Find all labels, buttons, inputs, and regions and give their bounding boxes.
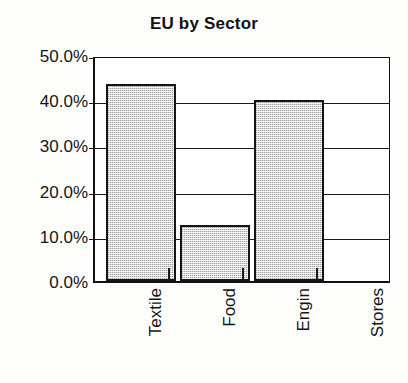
y-axis-tick [89, 239, 95, 240]
y-axis-tick-label: 40.0% [2, 92, 88, 112]
y-axis-tick-label: 20.0% [2, 183, 88, 203]
y-axis-tick [89, 58, 95, 59]
bar-engin [254, 100, 324, 281]
y-axis-tick [89, 194, 95, 195]
y-axis-tick-label: 0.0% [2, 273, 88, 293]
bar-textile [106, 84, 176, 281]
y-axis-tick-label: 30.0% [2, 137, 88, 157]
y-axis-tick-label: 10.0% [2, 228, 88, 248]
x-axis-tick-label-stores: Stores [368, 288, 388, 337]
chart-figure: EU by Sector 50.0% 40.0% 30.0% 20.0% 10.… [0, 0, 408, 383]
plot-area [93, 57, 390, 283]
y-axis-tick [89, 103, 95, 104]
x-axis-tick [168, 268, 170, 281]
x-axis-tick-label-food: Food [220, 288, 240, 327]
y-axis-labels: 50.0% 40.0% 30.0% 20.0% 10.0% 0.0% [0, 0, 88, 383]
x-axis-labels: Textile Food Engin Stores [93, 288, 390, 383]
y-axis-tick-label: 50.0% [2, 47, 88, 67]
bar-food [180, 225, 250, 281]
x-axis-tick [242, 268, 244, 281]
y-axis-tick [89, 148, 95, 149]
x-axis-tick-label-textile: Textile [146, 288, 166, 336]
x-axis-tick-label-engin: Engin [294, 288, 314, 331]
x-axis-tick [316, 268, 318, 281]
